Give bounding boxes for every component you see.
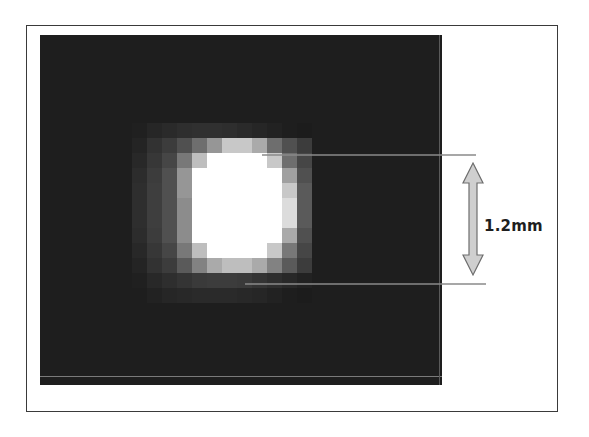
intensity-cell (222, 183, 237, 198)
intensity-cell (132, 198, 147, 213)
intensity-cell (282, 123, 297, 138)
intensity-cell (192, 168, 207, 183)
intensity-cell (207, 183, 222, 198)
intensity-cell (162, 273, 177, 288)
intensity-cell (192, 243, 207, 258)
intensity-cell (282, 168, 297, 183)
intensity-cell (222, 273, 237, 288)
intensity-cell (132, 228, 147, 243)
intensity-cell (162, 168, 177, 183)
intensity-cell (132, 258, 147, 273)
intensity-cell (207, 243, 222, 258)
intensity-cell (132, 153, 147, 168)
intensity-cell (192, 213, 207, 228)
intensity-cell (147, 243, 162, 258)
intensity-cell (132, 168, 147, 183)
intensity-cell (282, 198, 297, 213)
beam-spot-image (40, 35, 442, 385)
intensity-cell (177, 213, 192, 228)
intensity-cell (132, 138, 147, 153)
intensity-cell (267, 258, 282, 273)
intensity-cell (297, 198, 312, 213)
intensity-cell (177, 243, 192, 258)
intensity-cell (267, 213, 282, 228)
intensity-cell (192, 153, 207, 168)
intensity-cell (177, 123, 192, 138)
intensity-cell (297, 168, 312, 183)
intensity-cell (177, 273, 192, 288)
intensity-cell (267, 138, 282, 153)
intensity-cell (222, 123, 237, 138)
image-right-edge (439, 35, 440, 385)
intensity-cell (297, 228, 312, 243)
intensity-cell (297, 138, 312, 153)
intensity-cell (162, 213, 177, 228)
intensity-cell (132, 213, 147, 228)
intensity-cell (267, 153, 282, 168)
intensity-cell (237, 138, 252, 153)
intensity-cell (237, 243, 252, 258)
intensity-cell (282, 273, 297, 288)
intensity-cell (237, 288, 252, 303)
intensity-cell (207, 258, 222, 273)
intensity-cell (282, 183, 297, 198)
image-bottom-edge (40, 376, 442, 377)
intensity-cell (252, 123, 267, 138)
intensity-cell (222, 258, 237, 273)
intensity-cell (177, 198, 192, 213)
intensity-cell (192, 273, 207, 288)
intensity-cell (252, 288, 267, 303)
intensity-cell (192, 198, 207, 213)
intensity-cell (237, 258, 252, 273)
intensity-cell (222, 138, 237, 153)
intensity-cell (177, 153, 192, 168)
intensity-cell (192, 288, 207, 303)
intensity-cell (132, 288, 147, 303)
intensity-cell (147, 213, 162, 228)
intensity-cell (237, 213, 252, 228)
intensity-cell (192, 228, 207, 243)
intensity-cell (282, 228, 297, 243)
intensity-cell (147, 258, 162, 273)
intensity-cell (252, 198, 267, 213)
intensity-cell (162, 288, 177, 303)
intensity-cell (282, 213, 297, 228)
intensity-cell (237, 153, 252, 168)
intensity-cell (162, 198, 177, 213)
intensity-cell (297, 153, 312, 168)
intensity-cell (252, 258, 267, 273)
intensity-cell (237, 198, 252, 213)
intensity-cell (222, 153, 237, 168)
intensity-cell (207, 138, 222, 153)
intensity-cell (222, 228, 237, 243)
intensity-cell (207, 168, 222, 183)
intensity-cell (282, 153, 297, 168)
intensity-cell (267, 273, 282, 288)
intensity-cell (132, 183, 147, 198)
intensity-cell (252, 243, 267, 258)
intensity-cell (297, 243, 312, 258)
intensity-cell (252, 153, 267, 168)
intensity-cell (282, 138, 297, 153)
intensity-cell (222, 243, 237, 258)
intensity-cell (162, 183, 177, 198)
intensity-cell (177, 288, 192, 303)
intensity-cell (147, 198, 162, 213)
intensity-cell (282, 288, 297, 303)
beam-intensity-heatmap (40, 35, 442, 385)
intensity-cell (147, 183, 162, 198)
intensity-cell (297, 183, 312, 198)
intensity-cell (132, 123, 147, 138)
intensity-cell (162, 258, 177, 273)
intensity-cell (282, 243, 297, 258)
intensity-cell (282, 258, 297, 273)
intensity-cell (162, 153, 177, 168)
intensity-cell (147, 228, 162, 243)
intensity-cell (267, 123, 282, 138)
intensity-cell (192, 258, 207, 273)
intensity-cell (147, 288, 162, 303)
measurement-label: 1.2mm (484, 217, 543, 235)
intensity-cell (132, 243, 147, 258)
intensity-cell (147, 168, 162, 183)
intensity-cell (222, 288, 237, 303)
